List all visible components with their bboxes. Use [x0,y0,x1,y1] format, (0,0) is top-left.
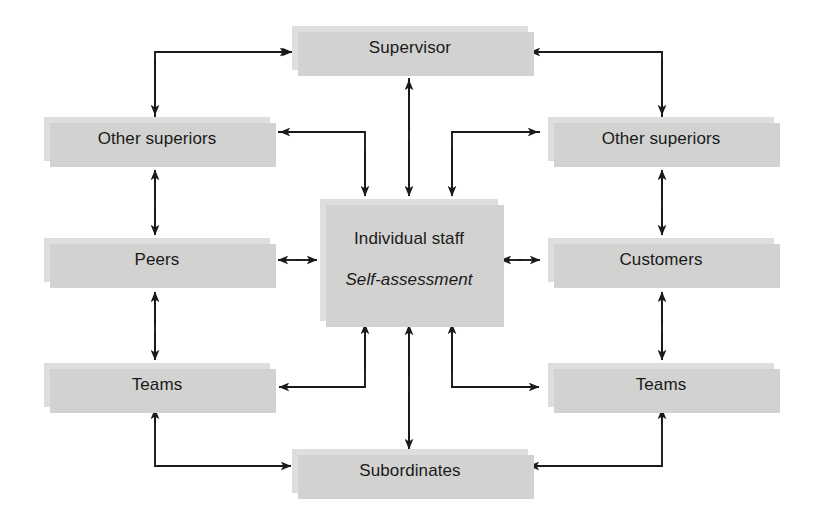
connector-individualstaff-teamsleft [280,325,365,387]
connector-othersuperiorsleft-supervisor [155,52,292,117]
node-teams-left[interactable]: Teams [44,363,270,407]
box-shadow [326,205,504,327]
node-teams-right-label: Teams [630,375,693,396]
node-other-superiors-left[interactable]: Other superiors [44,117,270,161]
node-individual-staff[interactable]: Individual staff Self-assessment [320,199,498,321]
node-other-superiors-left-label: Other superiors [92,129,223,150]
connector-othersuperiorsright-supervisor [528,52,662,117]
connector-teamsleft-subordinates [155,410,290,466]
diagram-canvas: Supervisor Other superiors Other superio… [0,0,817,517]
node-peers-label: Peers [129,250,186,271]
node-individual-staff-label: Individual staff [348,229,470,250]
node-teams-left-label: Teams [126,375,189,396]
node-supervisor-label: Supervisor [363,38,457,59]
connector-othersuperiorsleft-individualstaff [278,132,365,195]
node-individual-staff-subtitle: Self-assessment [339,270,478,291]
node-customers[interactable]: Customers [548,238,774,282]
node-other-superiors-right[interactable]: Other superiors [548,117,774,161]
connector-teamsright-subordinates [530,410,662,466]
node-subordinates-label: Subordinates [353,461,466,482]
node-peers[interactable]: Peers [44,238,270,282]
node-other-superiors-right-label: Other superiors [596,129,727,150]
node-subordinates[interactable]: Subordinates [292,449,528,493]
node-teams-right[interactable]: Teams [548,363,774,407]
connector-othersuperiorsright-individualstaff [452,132,540,195]
node-customers-label: Customers [613,250,708,271]
node-supervisor[interactable]: Supervisor [292,26,528,70]
connector-individualstaff-teamsright [452,325,538,387]
